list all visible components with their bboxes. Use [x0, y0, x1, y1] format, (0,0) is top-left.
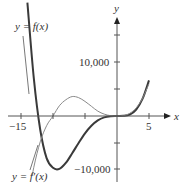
x-tick-label-neg15: −15	[9, 120, 27, 132]
x-axis-label: x	[173, 110, 179, 122]
y-axis-arrow-icon	[114, 17, 120, 24]
f-curve-label: y = f(x)	[14, 20, 48, 33]
y-tick-label-neg10000: −10,000	[74, 163, 111, 175]
y-axis-label: y	[113, 2, 119, 14]
fprime-curve-label: y = f′(x)	[11, 170, 48, 183]
chart: y x −15 5 10,000 −10,000 y = f(x) y = f′…	[0, 0, 183, 190]
x-tick-label-5: 5	[146, 120, 152, 132]
y-tick-label-10000: 10,000	[79, 56, 110, 68]
f-leader-line	[23, 36, 29, 94]
x-axis-arrow-icon	[164, 113, 171, 119]
